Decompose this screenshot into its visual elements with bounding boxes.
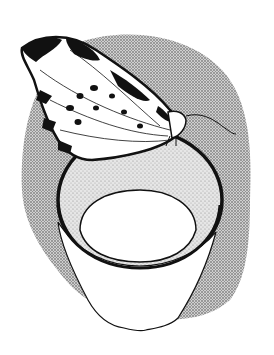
illustration (0, 0, 274, 355)
butterfly-cup-illustration (0, 0, 274, 355)
cup-inner-opening (80, 190, 196, 262)
